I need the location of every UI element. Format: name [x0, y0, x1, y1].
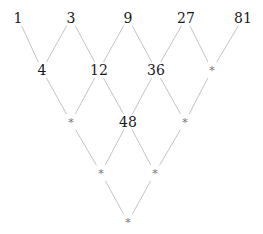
- number-node: 27: [177, 10, 195, 26]
- number-node: 9: [124, 10, 133, 26]
- edge-line: [160, 78, 180, 114]
- edge-line: [217, 26, 239, 63]
- placeholder-node: *: [209, 64, 215, 77]
- edge-line: [46, 26, 66, 62]
- lattice-diagram: 139278141236**48****: [0, 0, 263, 234]
- number-node: 81: [234, 10, 252, 26]
- edge-line: [160, 26, 181, 62]
- edge-line: [103, 26, 123, 62]
- placeholder-node: *: [68, 116, 74, 129]
- edge-line: [132, 181, 150, 214]
- edge-line: [132, 130, 151, 165]
- edge-line: [22, 26, 38, 62]
- number-node: 4: [38, 62, 47, 78]
- edge-line: [75, 78, 94, 114]
- edge-line: [189, 78, 208, 114]
- edge-line: [160, 130, 181, 165]
- placeholder-node: *: [125, 216, 131, 229]
- number-node: 1: [14, 10, 23, 26]
- edge-line: [105, 130, 124, 165]
- number-node: 12: [90, 62, 108, 78]
- number-node: 3: [67, 10, 76, 26]
- edge-line: [75, 26, 94, 62]
- edge-line: [190, 26, 208, 62]
- number-node: 36: [147, 62, 165, 78]
- edge-line: [46, 78, 66, 114]
- number-node: 48: [119, 114, 137, 130]
- edge-line: [132, 26, 151, 62]
- nodes: 139278141236**48****: [14, 10, 252, 229]
- placeholder-node: *: [152, 167, 158, 180]
- edge-line: [132, 78, 151, 114]
- edge-line: [105, 181, 123, 214]
- placeholder-node: *: [182, 116, 188, 129]
- edge-line: [76, 130, 97, 165]
- placeholder-node: *: [98, 167, 104, 180]
- edge-line: [103, 78, 123, 114]
